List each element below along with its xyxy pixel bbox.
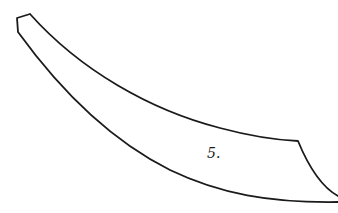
- blade-illustration: 5.: [0, 0, 338, 213]
- figure-number-label: 5.: [207, 146, 220, 160]
- blade-outline-drawing: [0, 0, 338, 213]
- blade-outline: [17, 14, 338, 202]
